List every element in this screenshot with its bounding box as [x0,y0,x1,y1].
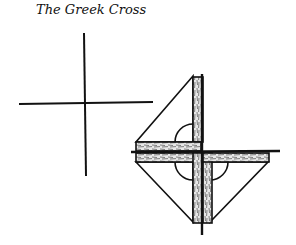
greek-cross-diagram [0,0,296,245]
simple-cross [19,33,153,176]
folded-strips-cross [131,74,280,235]
